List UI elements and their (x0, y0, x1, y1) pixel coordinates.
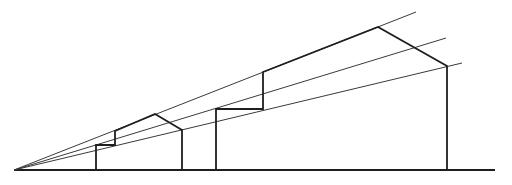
ray-middle (14, 38, 446, 170)
ray-bottom (14, 63, 462, 170)
small-house-outline (96, 114, 182, 170)
perspective-diagram (0, 0, 512, 185)
